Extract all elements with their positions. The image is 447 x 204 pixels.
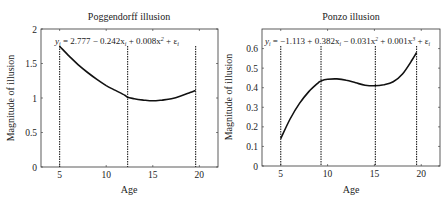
- y-tick-label: 0.3: [246, 103, 258, 113]
- x-tick-label: 5: [57, 170, 62, 180]
- regression-equation: yi = −1.113 + 0.382xi − 0.031x2 + 0.001x…: [264, 36, 430, 47]
- x-tick-label: 20: [195, 170, 205, 180]
- x-tick-label: 15: [370, 169, 380, 179]
- y-tick-label: 0: [253, 162, 258, 172]
- y-tick-label: 2: [32, 25, 37, 35]
- x-axis-label: Age: [343, 184, 360, 195]
- y-axis-label: Magnitude of illusion: [223, 54, 234, 141]
- x-tick-label: 20: [417, 169, 427, 179]
- chart-title: Poggendorff illusion: [88, 11, 170, 22]
- axis-ticks: 510152000.511.52: [25, 25, 218, 181]
- x-axis-label: Age: [121, 184, 138, 195]
- fit-curve: [281, 53, 417, 139]
- axis-ticks: 510152000.10.20.30.40.50.6: [246, 29, 440, 179]
- ponzo-chart: Ponzo illusion 510152000.10.20.30.40.50.…: [223, 11, 440, 195]
- x-tick-label: 10: [323, 169, 333, 179]
- y-axis-label: Magnitude of illusion: [5, 55, 16, 142]
- y-tick-label: 0.6: [246, 44, 258, 54]
- x-tick-label: 10: [101, 170, 111, 180]
- y-tick-label: 0.5: [246, 64, 258, 74]
- dashed-reference-lines: [60, 46, 196, 167]
- y-tick-label: 0.2: [246, 122, 258, 132]
- dashed-reference-lines: [281, 46, 417, 166]
- poggendorff-chart: Poggendorff illusion 510152000.511.52 yi…: [5, 11, 218, 195]
- y-tick-label: 0.1: [246, 142, 258, 152]
- figure: Poggendorff illusion 510152000.511.52 yi…: [0, 0, 447, 204]
- y-tick-label: 1.5: [25, 59, 37, 69]
- y-tick-label: 0: [32, 163, 37, 173]
- y-tick-label: 0.4: [246, 83, 258, 93]
- x-tick-label: 15: [148, 170, 158, 180]
- regression-equation: yi = 2.777 − 0.242xi + 0.008x2 + εi: [54, 36, 179, 47]
- plot-area: [262, 29, 440, 166]
- y-tick-label: 0.5: [25, 128, 37, 138]
- chart-title: Ponzo illusion: [322, 11, 380, 22]
- x-tick-label: 5: [278, 169, 283, 179]
- y-tick-label: 1: [32, 94, 37, 104]
